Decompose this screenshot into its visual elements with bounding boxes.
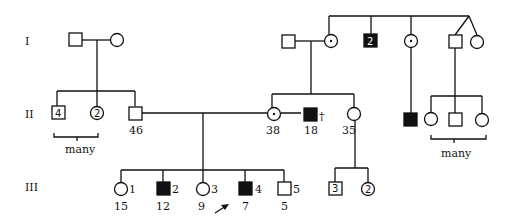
gen1-affected-count: 2	[367, 36, 373, 47]
gen2-cousin-female-1	[425, 113, 438, 126]
gen1-twin-female	[471, 36, 484, 49]
age-35: 35	[342, 124, 356, 137]
gen3-affected-male-2	[157, 182, 170, 195]
gen3-female-1	[115, 183, 128, 196]
gen3-age-12: 12	[156, 200, 170, 213]
gen3-right-male-count: 3	[332, 183, 338, 194]
gen2-affected-male-18-deceased	[304, 108, 317, 121]
gen1-left-male	[69, 33, 82, 46]
age-46: 46	[129, 124, 143, 137]
gen-label-II: II	[25, 108, 34, 121]
age-38: 38	[266, 124, 280, 137]
gen-label-III: III	[25, 181, 38, 194]
gen3-age-7: 7	[242, 200, 249, 213]
age-18: 18	[304, 124, 318, 137]
gen2-sibs-female-count: 2	[94, 108, 100, 119]
deceased-mark: †	[319, 110, 325, 123]
gen2-female-35	[348, 108, 361, 121]
gen2-sibs-male-count: 4	[55, 108, 61, 119]
gen2-cousin-male	[449, 113, 462, 126]
gen3-age-9: 9	[198, 200, 205, 213]
gen3-id-4: 4	[255, 183, 262, 196]
gen3-age-15: 15	[114, 200, 128, 213]
gen-label-I: I	[25, 35, 29, 48]
many-right-label: many	[441, 147, 472, 160]
gen3-id-1: 1	[129, 183, 136, 196]
gen3-right-female-count: 2	[365, 184, 371, 195]
gen3-id-5: 5	[293, 183, 300, 196]
gen1-right-male	[282, 35, 295, 48]
pedigree-chart: I II III 2 4 2 many 46 38 18 † 35 many 1…	[0, 0, 510, 224]
gen3-id-3: 3	[211, 183, 218, 196]
gen3-affected-male-4-proband	[239, 182, 252, 195]
gen2-cousin-female-2	[476, 114, 489, 127]
gen3-age-5: 5	[281, 200, 288, 213]
gen2-male-46	[129, 107, 142, 120]
gen3-id-2: 2	[172, 183, 179, 196]
gen1-twin-male	[449, 35, 462, 48]
many-left-label: many	[65, 143, 96, 156]
gen3-female-3	[197, 183, 210, 196]
gen1-left-female	[111, 34, 124, 47]
gen3-male-5	[278, 182, 291, 195]
gen2-affected-male-right	[404, 113, 417, 126]
